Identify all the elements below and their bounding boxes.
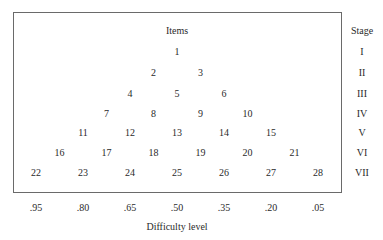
item-number: 20 [243, 148, 253, 158]
item-number: 5 [175, 89, 180, 99]
difficulty-tick: .95 [30, 203, 43, 213]
stage-label: VI [357, 148, 368, 158]
x-axis-label: Difficulty level [146, 222, 207, 232]
item-number: 17 [102, 148, 112, 158]
item-number: 6 [222, 89, 227, 99]
item-number: 27 [266, 168, 276, 178]
item-number: 21 [290, 148, 300, 158]
item-number: 14 [219, 128, 229, 138]
item-number: 16 [55, 148, 65, 158]
stage-label: III [357, 89, 367, 99]
difficulty-tick: .35 [218, 203, 231, 213]
stage-header: Stage [351, 26, 373, 36]
difficulty-tick: .20 [265, 203, 278, 213]
items-header: Items [166, 26, 188, 36]
item-number: 4 [128, 89, 133, 99]
items-frame [13, 12, 342, 193]
difficulty-tick: .05 [312, 203, 325, 213]
item-number: 22 [31, 168, 41, 178]
item-number: 25 [172, 168, 182, 178]
item-number: 19 [196, 148, 206, 158]
item-number: 18 [149, 148, 159, 158]
item-number: 23 [78, 168, 88, 178]
difficulty-tick: .80 [77, 203, 90, 213]
item-number: 12 [125, 128, 135, 138]
stage-label: VII [355, 168, 369, 178]
item-number: 9 [198, 109, 203, 119]
item-number: 28 [313, 168, 323, 178]
item-number: 13 [172, 128, 182, 138]
item-number: 11 [78, 128, 88, 138]
item-number: 26 [219, 168, 229, 178]
stage-label: I [360, 47, 363, 57]
item-number: 8 [151, 109, 156, 119]
item-number: 1 [175, 47, 180, 57]
item-number: 24 [125, 168, 135, 178]
item-number: 7 [104, 109, 109, 119]
item-number: 10 [243, 109, 253, 119]
item-number: 2 [151, 68, 156, 78]
item-number: 3 [198, 68, 203, 78]
stage-label: V [358, 128, 365, 138]
difficulty-tick: .50 [171, 203, 184, 213]
difficulty-tick: .65 [124, 203, 137, 213]
stage-label: II [359, 68, 366, 78]
item-number: 15 [266, 128, 276, 138]
stage-label: IV [357, 109, 368, 119]
